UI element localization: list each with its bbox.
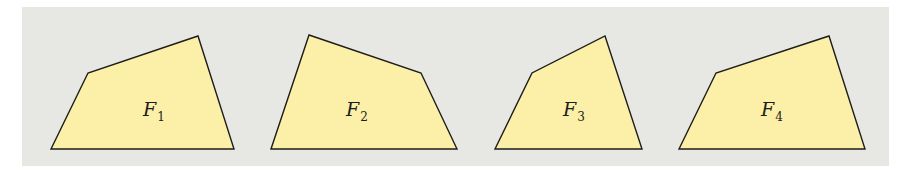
figure-f3: F3 [495,36,642,149]
quadrilateral-f2 [271,35,457,149]
figure-f1: F1 [51,36,234,149]
quadrilateral-f3 [495,36,642,149]
figure-f4: F4 [679,36,865,149]
quadrilateral-f4 [679,36,865,149]
quadrilateral-f1 [51,36,234,149]
figure-f2: F2 [271,35,457,149]
quadrilaterals-diagram: F1 F2 F3 F4 [0,0,911,173]
